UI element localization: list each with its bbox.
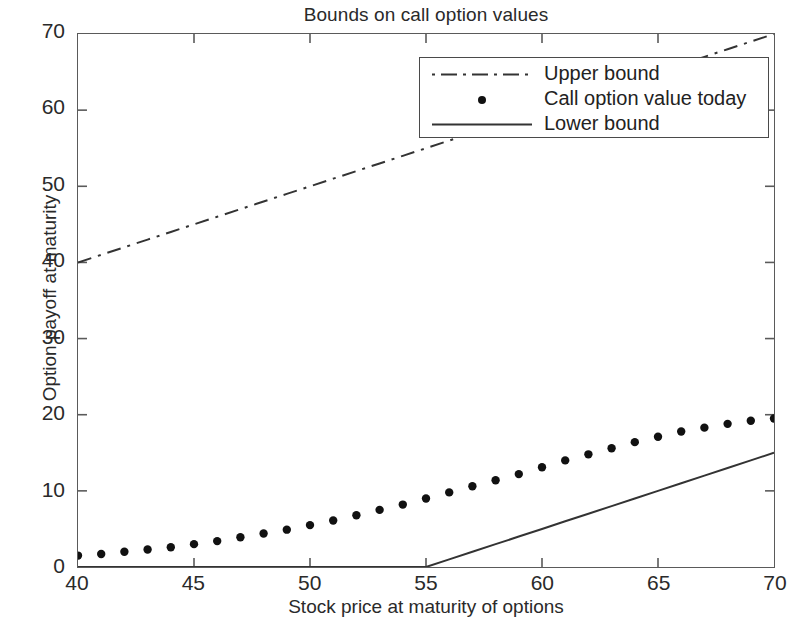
legend-item-upper-bound[interactable]: Upper bound <box>420 61 768 88</box>
y-tick-label: 50 <box>5 172 65 196</box>
data-point <box>422 494 430 502</box>
legend-item-call-option-value[interactable]: Call option value today <box>420 86 768 113</box>
data-point <box>700 423 708 431</box>
data-point <box>515 470 523 478</box>
x-tick-label: 50 <box>275 571 345 595</box>
series-line-2 <box>78 453 774 567</box>
y-tick-label: 10 <box>5 478 65 502</box>
figure-canvas: Bounds on call option values Option payo… <box>0 0 795 628</box>
x-tick-label: 55 <box>391 571 461 595</box>
legend-item-lower-bound[interactable]: Lower bound <box>420 111 768 138</box>
y-tick-label: 20 <box>5 401 65 425</box>
y-tick-label: 60 <box>5 95 65 119</box>
data-point <box>283 526 291 534</box>
data-point <box>78 551 82 559</box>
data-point <box>167 543 175 551</box>
data-point <box>352 511 360 519</box>
data-point <box>375 506 383 514</box>
data-point <box>561 456 569 464</box>
data-point <box>654 433 662 441</box>
data-point <box>120 548 128 556</box>
data-point <box>584 450 592 458</box>
x-tick-label: 60 <box>507 571 577 595</box>
legend-label: Upper bound <box>544 62 660 85</box>
y-tick-label: 70 <box>5 19 65 43</box>
data-point <box>97 550 105 558</box>
data-point <box>468 482 476 490</box>
data-point <box>445 488 453 496</box>
y-tick-label: 40 <box>5 248 65 272</box>
solid-line-sample <box>430 111 534 138</box>
x-axis-title: Stock price at maturity of options <box>77 596 775 618</box>
dash-dot-line-sample <box>430 61 534 88</box>
data-point <box>190 540 198 548</box>
x-tick-label: 40 <box>42 571 112 595</box>
data-point <box>306 521 314 529</box>
chart-title: Bounds on call option values <box>77 4 775 26</box>
data-point <box>213 537 221 545</box>
data-point <box>259 529 267 537</box>
x-tick-label: 70 <box>740 571 795 595</box>
data-point <box>143 545 151 553</box>
x-tick-label: 45 <box>158 571 228 595</box>
legend[interactable]: Upper bound Call option value today Lowe… <box>419 57 769 138</box>
y-tick-label: 30 <box>5 325 65 349</box>
data-point <box>607 444 615 452</box>
dot-marker-sample <box>430 86 534 113</box>
data-point <box>631 438 639 446</box>
data-point <box>677 427 685 435</box>
data-point <box>399 500 407 508</box>
data-point <box>491 476 499 484</box>
data-point <box>538 463 546 471</box>
data-point <box>770 414 774 422</box>
x-tick-label: 65 <box>624 571 694 595</box>
data-point <box>747 417 755 425</box>
legend-label: Call option value today <box>544 87 746 110</box>
data-point <box>236 533 244 541</box>
data-point <box>723 420 731 428</box>
data-point <box>329 516 337 524</box>
legend-label: Lower bound <box>544 112 660 135</box>
